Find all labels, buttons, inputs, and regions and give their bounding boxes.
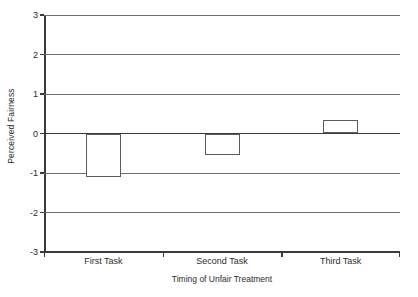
bar — [86, 134, 121, 177]
y-tick-label: 0 — [22, 129, 38, 138]
y-tick-label: -2 — [22, 208, 38, 217]
bar-chart-figure: Perceived Fairness 3210-1-2-3 First Task… — [0, 0, 418, 297]
x-category-label: First Task — [84, 257, 122, 266]
y-tick-mark-0 — [40, 133, 44, 134]
gridline-3 — [44, 15, 400, 16]
plot-area — [44, 15, 400, 252]
y-tick-label: -3 — [22, 248, 38, 257]
y-axis-title-text: Perceived Fairness — [6, 88, 16, 163]
y-tick-label: 2 — [22, 50, 38, 59]
y-axis-tick-labels: 3210-1-2-3 — [22, 0, 38, 297]
y-axis-title: Perceived Fairness — [0, 0, 22, 252]
x-axis-title: Timing of Unfair Treatment — [44, 274, 400, 284]
y-tick-label: -1 — [22, 169, 38, 178]
gridline-2 — [44, 54, 400, 55]
bar — [205, 134, 240, 156]
y-tick-mark--2 — [40, 212, 44, 213]
y-tick-mark-3 — [40, 14, 44, 15]
y-tick-mark-1 — [40, 93, 44, 94]
x-category-label: Second Task — [196, 257, 247, 266]
y-tick-label: 3 — [22, 11, 38, 20]
bar — [323, 120, 358, 134]
gridline--3 — [44, 251, 400, 253]
gridline-1 — [44, 94, 400, 95]
gridline--2 — [44, 212, 400, 213]
y-tick-mark-2 — [40, 54, 44, 55]
x-category-label: Third Task — [320, 257, 361, 266]
x-axis-category-labels: First TaskSecond TaskThird Task — [44, 257, 400, 271]
y-tick-mark--1 — [40, 172, 44, 173]
y-tick-label: 1 — [22, 90, 38, 99]
